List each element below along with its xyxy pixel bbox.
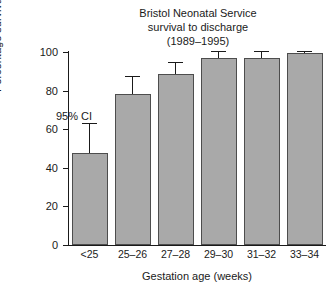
error-bar-cap bbox=[297, 51, 312, 52]
bar-group: 25–26 bbox=[115, 52, 151, 245]
bar bbox=[287, 53, 323, 245]
bar bbox=[72, 153, 108, 245]
y-tick-label: 100 bbox=[40, 47, 58, 58]
bar-group: 29–30 bbox=[201, 52, 237, 245]
error-bar-cap bbox=[254, 51, 269, 52]
bar-group: 31–32 bbox=[244, 52, 280, 245]
x-tick-label: 27–28 bbox=[158, 248, 194, 260]
bar-series: <2525–2627–2829–3031–3233–34 bbox=[68, 52, 326, 245]
error-bar-stem bbox=[89, 123, 90, 153]
x-tick-label: 29–30 bbox=[201, 248, 237, 260]
y-tick-label: 0 bbox=[52, 240, 58, 251]
error-bar-stem bbox=[218, 51, 219, 58]
ci-annotation: 95% CI bbox=[56, 110, 92, 122]
y-tick-label: 80 bbox=[46, 86, 58, 97]
x-axis-label: Gestation age (weeks) bbox=[68, 270, 326, 282]
bar bbox=[158, 74, 194, 245]
error-bar-cap bbox=[125, 76, 140, 77]
y-tick-label: 20 bbox=[46, 201, 58, 212]
y-axis-label: Percentage survival bbox=[0, 0, 3, 92]
bar-chart: Bristol Neonatal Service survival to dis… bbox=[0, 0, 336, 294]
bar bbox=[244, 58, 280, 245]
chart-title: Bristol Neonatal Service survival to dis… bbox=[68, 6, 328, 48]
chart-title-line-1: Bristol Neonatal Service bbox=[68, 6, 328, 20]
error-bar-cap bbox=[82, 123, 97, 124]
x-tick-label: <25 bbox=[72, 248, 108, 260]
x-tick-label: 31–32 bbox=[244, 248, 280, 260]
bar bbox=[201, 58, 237, 245]
y-tick-mark bbox=[63, 245, 68, 246]
bar bbox=[115, 94, 151, 245]
bar-group: <25 bbox=[72, 52, 108, 245]
x-tick-label: 33–34 bbox=[287, 248, 323, 260]
bar-group: 33–34 bbox=[287, 52, 323, 245]
y-tick-label: 60 bbox=[46, 124, 58, 135]
error-bar-stem bbox=[261, 51, 262, 58]
error-bar-cap bbox=[168, 62, 183, 63]
chart-title-line-2: survival to discharge bbox=[68, 20, 328, 34]
y-tick-label: 40 bbox=[46, 163, 58, 174]
x-tick-label: 25–26 bbox=[115, 248, 151, 260]
error-bar-cap bbox=[211, 51, 226, 52]
bar-group: 27–28 bbox=[158, 52, 194, 245]
error-bar-stem bbox=[132, 76, 133, 94]
error-bar-stem bbox=[175, 62, 176, 75]
chart-title-line-3: (1989–1995) bbox=[68, 34, 328, 48]
plot-area: 020406080100 <2525–2627–2829–3031–3233–3… bbox=[68, 52, 326, 245]
x-axis-line bbox=[68, 245, 326, 246]
